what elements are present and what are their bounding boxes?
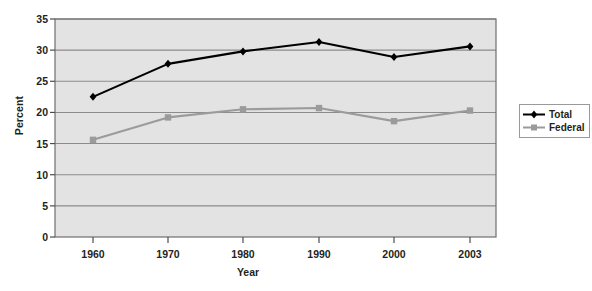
x-tick-label: 1980 [213,248,273,260]
legend-marker-total-icon [522,109,546,120]
legend-label-federal: Federal [546,122,585,133]
line-chart: Percent 05101520253035 19601970198019902… [0,0,592,291]
chart-legend: Total Federal [519,104,590,138]
x-axis-title: Year [0,266,496,278]
x-tick-label: 1990 [289,248,349,260]
x-tick-label: 2003 [440,248,500,260]
x-tick-label: 2000 [364,248,424,260]
legend-item-total[interactable]: Total [522,108,585,121]
x-tick-label: 1960 [63,248,123,260]
x-tick-label: 1970 [138,248,198,260]
legend-item-federal[interactable]: Federal [522,121,585,134]
legend-label-total: Total [546,109,572,120]
x-axis-tick-labels: 196019701980199020002003 [0,0,592,291]
legend-marker-federal-icon [522,122,546,133]
